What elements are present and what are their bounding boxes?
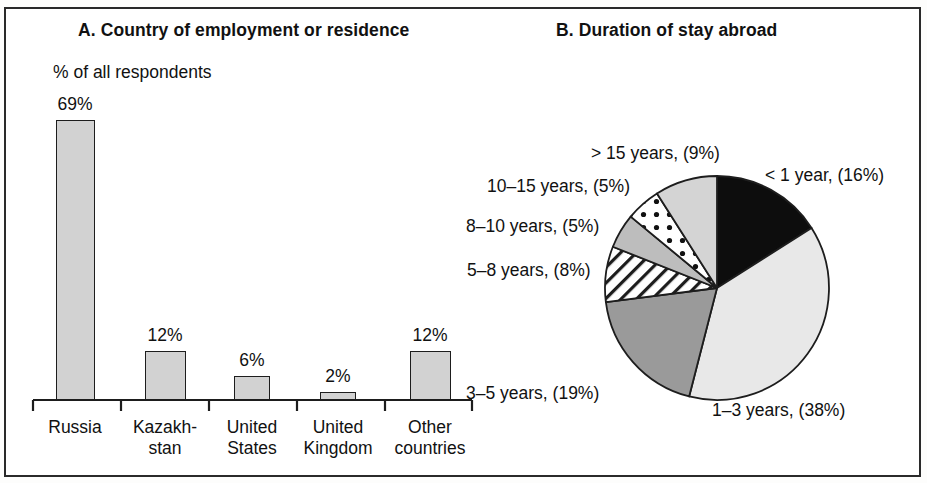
figure-container: A. Country of employment or residence B.… bbox=[0, 0, 927, 483]
pie-label-4: 5–8 years, (8%) bbox=[467, 260, 591, 281]
pie-label-7: > 15 years, (9%) bbox=[591, 143, 720, 164]
pie-chart-panel: > 15 years, (9%)10–15 years, (5%)8–10 ye… bbox=[0, 0, 927, 483]
pie-label-6: 10–15 years, (5%) bbox=[487, 176, 630, 197]
pie-label-2: 1–3 years, (38%) bbox=[712, 400, 845, 421]
pie-label-1: < 1 year, (16%) bbox=[765, 165, 884, 186]
pie-label-5: 8–10 years, (5%) bbox=[466, 216, 599, 237]
pie-label-3: 3–5 years, (19%) bbox=[466, 383, 599, 404]
